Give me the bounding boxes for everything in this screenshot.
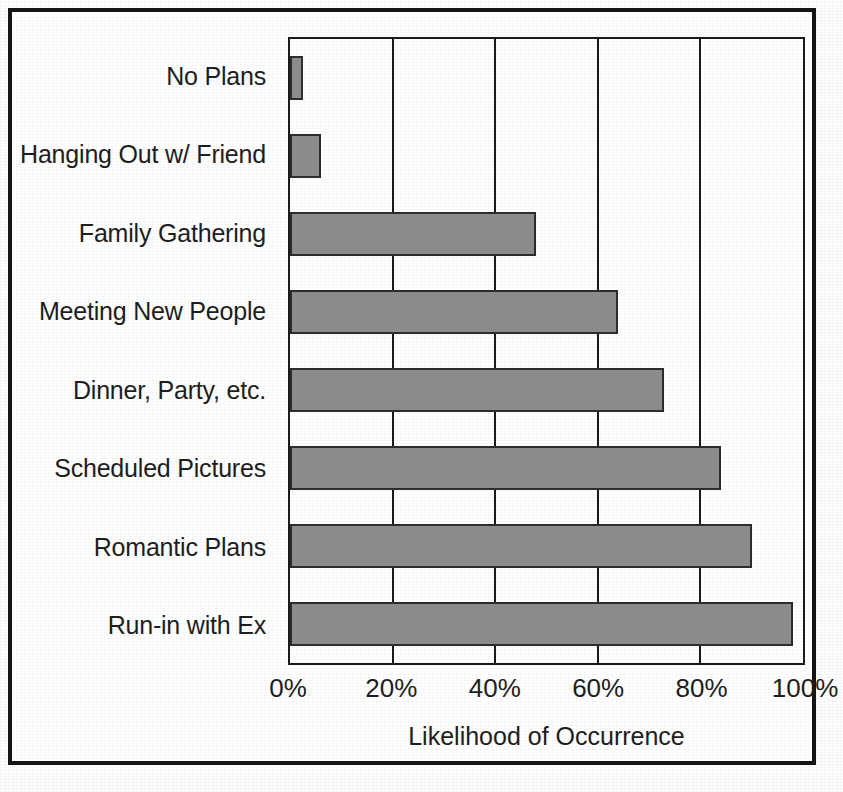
category-label-meeting-new-people: Meeting New People <box>20 273 278 352</box>
bar-dinner-party-etc <box>290 368 664 412</box>
x-tick-label-60: 60% <box>572 673 624 704</box>
category-label-dinner-party-etc: Dinner, Party, etc. <box>20 351 278 430</box>
bar-row <box>290 585 803 663</box>
x-tick-label-80: 80% <box>676 673 728 704</box>
bar-run-in-with-ex <box>290 602 793 646</box>
category-label-hanging-out-with-friend: Hanging Out w/ Friend <box>20 116 278 195</box>
bar-row <box>290 195 803 273</box>
category-axis-labels: No Plans Hanging Out w/ Friend Family Ga… <box>20 37 278 665</box>
x-tick-label-0: 0% <box>269 673 307 704</box>
bar-hanging-out-with-friend <box>290 134 321 178</box>
bar-family-gathering <box>290 212 536 256</box>
bar-scheduled-pictures <box>290 446 721 490</box>
scanned-page: No Plans Hanging Out w/ Friend Family Ga… <box>0 0 843 792</box>
category-label-scheduled-pictures: Scheduled Pictures <box>20 430 278 509</box>
category-label-no-plans: No Plans <box>20 37 278 116</box>
bar-meeting-new-people <box>290 290 618 334</box>
category-label-family-gathering: Family Gathering <box>20 194 278 273</box>
x-tick-label-20: 20% <box>365 673 417 704</box>
bar-chart: No Plans Hanging Out w/ Friend Family Ga… <box>0 0 843 792</box>
bar-row <box>290 273 803 351</box>
bar-no-plans <box>290 56 303 100</box>
bar-rows <box>290 39 803 663</box>
bar-row <box>290 117 803 195</box>
bar-row <box>290 507 803 585</box>
x-axis-title: Likelihood of Occurrence <box>288 722 805 751</box>
plot-area <box>288 37 805 665</box>
category-label-run-in-with-ex: Run-in with Ex <box>20 587 278 666</box>
bar-romantic-plans <box>290 524 752 568</box>
x-axis-tick-labels: 0%20%40%60%80%100% <box>288 673 805 709</box>
category-label-romantic-plans: Romantic Plans <box>20 508 278 587</box>
bar-row <box>290 351 803 429</box>
bar-row <box>290 39 803 117</box>
x-tick-label-40: 40% <box>469 673 521 704</box>
bar-row <box>290 429 803 507</box>
x-tick-label-100: 100% <box>772 673 839 704</box>
